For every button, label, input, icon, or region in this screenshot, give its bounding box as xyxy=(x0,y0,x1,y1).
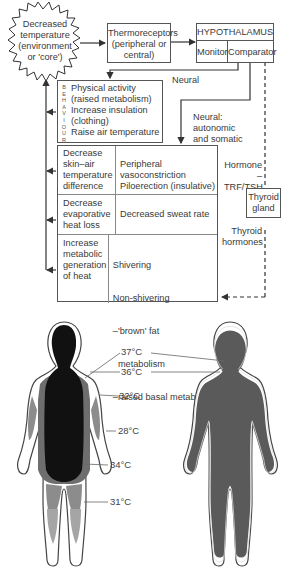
temp-label-28: 28°C xyxy=(118,425,139,436)
warm-body xyxy=(184,322,278,566)
temp-label-31: 31°C xyxy=(110,496,131,507)
temp-label-32: 32°C xyxy=(119,390,140,401)
temp-label-37: 37°C xyxy=(121,346,142,357)
body-figures xyxy=(0,0,291,570)
temp-label-34: 34°C xyxy=(110,459,131,470)
temp-label-36: 36°C xyxy=(121,366,142,377)
